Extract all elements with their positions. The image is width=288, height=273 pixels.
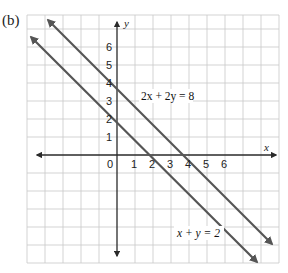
line-2x-2y-8 (48, 20, 272, 244)
y-axis-label: y (123, 17, 129, 29)
grid (27, 15, 279, 263)
x-tick-2: 2 (149, 158, 155, 170)
equation-label-1: 2x + 2y = 8 (141, 90, 194, 103)
y-tick-5: 5 (106, 59, 112, 71)
y-tick-3: 3 (106, 95, 112, 107)
x-tick-1: 1 (131, 158, 137, 170)
coordinate-plane: y x 0 1 2 3 4 5 6 1 2 3 4 5 6 2x + 2y = … (0, 0, 288, 273)
y-tick-1: 1 (106, 131, 112, 143)
x-axis-label: x (263, 141, 269, 153)
y-tick-2: 2 (106, 113, 112, 125)
x-tick-6: 6 (221, 158, 227, 170)
equation-label-2: x + y = 2 (176, 227, 220, 240)
y-tick-4: 4 (106, 77, 112, 89)
x-tick-3: 3 (167, 158, 173, 170)
x-tick-0: 0 (107, 158, 113, 170)
x-tick-4: 4 (185, 158, 191, 170)
y-tick-6: 6 (106, 41, 112, 53)
x-tick-5: 5 (203, 158, 209, 170)
